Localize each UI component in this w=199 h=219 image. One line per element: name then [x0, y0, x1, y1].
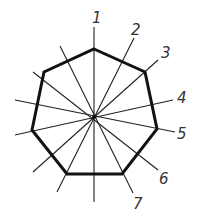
line-labels: 1234567	[92, 9, 187, 213]
line-label-5: 5	[177, 125, 187, 143]
line-label-2: 2	[131, 21, 141, 39]
line-label-6: 6	[159, 170, 169, 188]
center-point	[92, 115, 96, 119]
division-line-7	[60, 46, 133, 193]
heptagon-diagram: 1234567	[0, 0, 199, 219]
division-lines	[15, 27, 175, 202]
line-label-3: 3	[161, 44, 171, 62]
line-label-7: 7	[133, 195, 143, 213]
line-label-1: 1	[92, 9, 102, 27]
line-label-4: 4	[177, 89, 187, 107]
